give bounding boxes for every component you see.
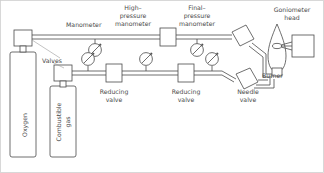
label-valves: Valves [42,57,62,64]
label-final-pressure-line2: pressure [184,12,211,20]
label-final-pressure-line3: manometer [179,20,216,27]
label-oxygen: Oxygen [21,113,29,137]
label-burner: Burner [262,72,283,79]
label-manometer: Manometer [66,21,102,28]
label-goniometer-line2: head [284,14,300,21]
label-layer: Manometer High– pressure manometer Final… [0,0,324,173]
label-high-pressure-line1: High– [124,4,141,12]
label-final-pressure-line1: Final– [188,4,205,11]
label-reducing-valve-2-line2: valve [178,96,195,103]
label-high-pressure-line2: pressure [120,12,147,20]
label-high-pressure-line3: manometer [115,20,152,27]
label-needle-valve-line2: valve [240,96,257,103]
label-needle-valve-line1: Needle [237,88,259,95]
label-reducing-valve-2-line1: Reducing [172,88,201,96]
label-combustible-gas-line2: gas [64,117,72,128]
label-combustible-gas-line1: Combustible [55,102,62,141]
label-goniometer-line1: Goniometer [274,6,311,13]
gas-supply-schematic-diagram: Manometer High– pressure manometer Final… [0,0,324,173]
label-reducing-valve-1-line2: valve [106,96,123,103]
label-reducing-valve-1-line1: Reducing [100,88,129,96]
